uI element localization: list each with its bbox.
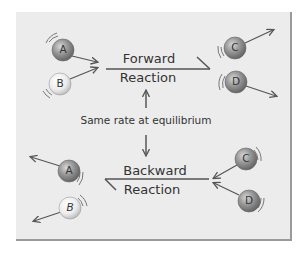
molecule-label: A	[65, 164, 72, 176]
arrow-b-in	[70, 68, 97, 79]
molecule-label: B	[66, 201, 73, 213]
forward-reaction-label: Reaction	[120, 70, 176, 85]
molecule-label: D	[245, 194, 253, 206]
arrow-c-in	[214, 165, 237, 178]
arrow-a-in	[72, 56, 97, 62]
arrow-d-out	[246, 86, 276, 96]
molecule-label: C	[231, 41, 238, 53]
backward-label: Backward	[123, 163, 187, 178]
molecule-label: D	[232, 75, 240, 87]
molecule-label: C	[242, 152, 249, 164]
forward-label: Forward	[123, 51, 175, 66]
arrow-b-out	[34, 212, 61, 221]
arrow-d-in	[214, 183, 239, 195]
equilibrium-label: Same rate at equilibrium	[81, 114, 212, 126]
backward-reaction-label: Reaction	[124, 182, 180, 197]
molecule-label: B	[56, 77, 63, 89]
reaction-diagram	[0, 0, 303, 255]
arrow-c-out	[245, 30, 273, 43]
molecule-label: A	[59, 43, 66, 55]
arrow-a-out	[31, 157, 60, 166]
